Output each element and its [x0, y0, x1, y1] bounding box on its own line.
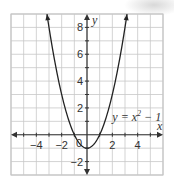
svg-text:2: 2 [109, 139, 115, 151]
svg-text:4: 4 [77, 75, 83, 87]
svg-text:−2: −2 [70, 156, 83, 168]
svg-text:4: 4 [135, 139, 141, 151]
svg-text:2: 2 [77, 102, 83, 114]
curve-equation-label: y = x2 − 1 [111, 109, 161, 124]
y-axis-label: y [91, 13, 98, 27]
svg-text:−4: −4 [30, 139, 43, 151]
parabola-chart: −4−224−224680 x y y = x2 − 1 [0, 0, 174, 179]
svg-text:−2: −2 [55, 139, 68, 151]
svg-text:6: 6 [77, 48, 83, 60]
svg-text:8: 8 [77, 21, 83, 33]
